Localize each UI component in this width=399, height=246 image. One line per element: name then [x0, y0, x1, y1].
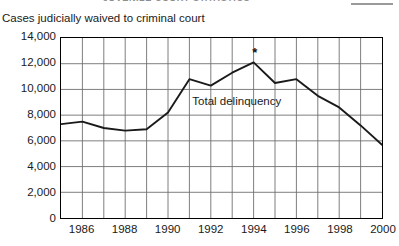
x-axis-tick-label: 1998 — [327, 223, 353, 235]
series-total-delinquency — [61, 38, 382, 218]
x-axis-tick-label: 2000 — [370, 223, 396, 235]
horizontal-rule-icon — [351, 3, 393, 5]
page-running-header: JUVENILE COURT STATISTICS — [0, 0, 399, 7]
chart-title: Cases judicially waived to criminal cour… — [2, 12, 205, 24]
running-header-text: JUVENILE COURT STATISTICS — [103, 0, 250, 3]
y-axis-tick-label: 4,000 — [2, 161, 56, 173]
y-axis-tick-label: 2,000 — [2, 187, 56, 199]
x-axis-tick-label: 1996 — [284, 223, 310, 235]
x-axis-tick-label: 1994 — [241, 223, 267, 235]
plot-area: Total delinquency * — [60, 37, 383, 219]
y-axis-tick-label: 0 — [2, 213, 56, 225]
x-axis-tick-label: 1992 — [198, 223, 224, 235]
y-axis-tick-label: 6,000 — [2, 135, 56, 147]
x-axis-tick-label: 1986 — [69, 223, 95, 235]
y-axis-tick-label: 8,000 — [2, 109, 56, 121]
x-axis-tick-label: 1988 — [112, 223, 138, 235]
y-axis-tick-label: 10,000 — [2, 83, 56, 95]
y-axis-tick-label: 14,000 — [2, 31, 56, 43]
y-axis: 02,0004,0006,0008,00010,00012,00014,000 — [0, 37, 56, 219]
y-axis-tick-label: 12,000 — [2, 57, 56, 69]
x-axis: 19861988199019921994199619982000 — [60, 223, 383, 239]
x-axis-tick-label: 1990 — [155, 223, 181, 235]
series-label-total-delinquency: Total delinquency — [192, 95, 281, 107]
asterisk-marker-icon: * — [252, 46, 257, 59]
